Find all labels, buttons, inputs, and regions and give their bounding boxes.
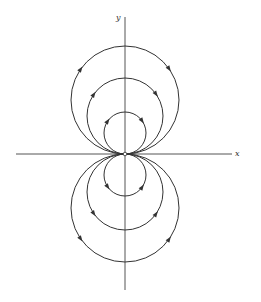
origin-point — [123, 152, 127, 156]
diagram-canvas: y x — [0, 0, 261, 302]
phase-portrait — [0, 0, 261, 302]
y-axis-label: y — [116, 14, 121, 22]
x-axis-label: x — [235, 150, 240, 158]
